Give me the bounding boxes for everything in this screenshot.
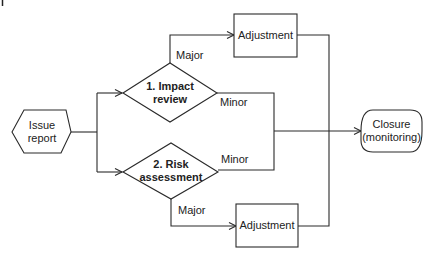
edge-label-risk-major: Major xyxy=(178,204,206,216)
process-flow-diagram: Issue report 1. Impact review 2. Risk as… xyxy=(0,0,435,261)
issue-report-line1: Issue xyxy=(29,119,55,131)
edge-label-impact-major: Major xyxy=(176,49,204,61)
node-adjustment-top[interactable]: Adjustment xyxy=(234,14,297,57)
node-impact-review[interactable]: 1. Impact review xyxy=(123,63,217,122)
risk-assessment-line1: 2. Risk xyxy=(153,158,189,170)
node-adjustment-bottom[interactable]: Adjustment xyxy=(236,204,298,247)
adjustment-top-label: Adjustment xyxy=(238,29,293,41)
impact-review-line1: 1. Impact xyxy=(146,80,194,92)
node-issue-report[interactable]: Issue report xyxy=(12,110,71,153)
node-risk-assessment[interactable]: 2. Risk assessment xyxy=(123,143,218,199)
closure-line1: Closure xyxy=(373,118,411,130)
edge-label-risk-minor: Minor xyxy=(221,153,249,165)
risk-assessment-line2: assessment xyxy=(140,171,203,183)
edge-label-impact-minor: Minor xyxy=(220,96,248,108)
adjustment-bottom-label: Adjustment xyxy=(239,219,294,231)
connectors xyxy=(71,32,361,230)
impact-review-line2: review xyxy=(153,93,188,105)
issue-report-line2: report xyxy=(28,132,57,144)
node-closure[interactable]: Closure (monitoring) xyxy=(361,110,422,152)
closure-line2: (monitoring) xyxy=(362,131,421,143)
